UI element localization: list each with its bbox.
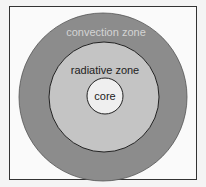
convection-zone-label: convection zone — [66, 26, 146, 38]
sun-structure-diagram: convection zone radiative zone core — [0, 0, 206, 187]
radiative-zone-label: radiative zone — [71, 64, 140, 76]
core-label: core — [94, 90, 115, 102]
